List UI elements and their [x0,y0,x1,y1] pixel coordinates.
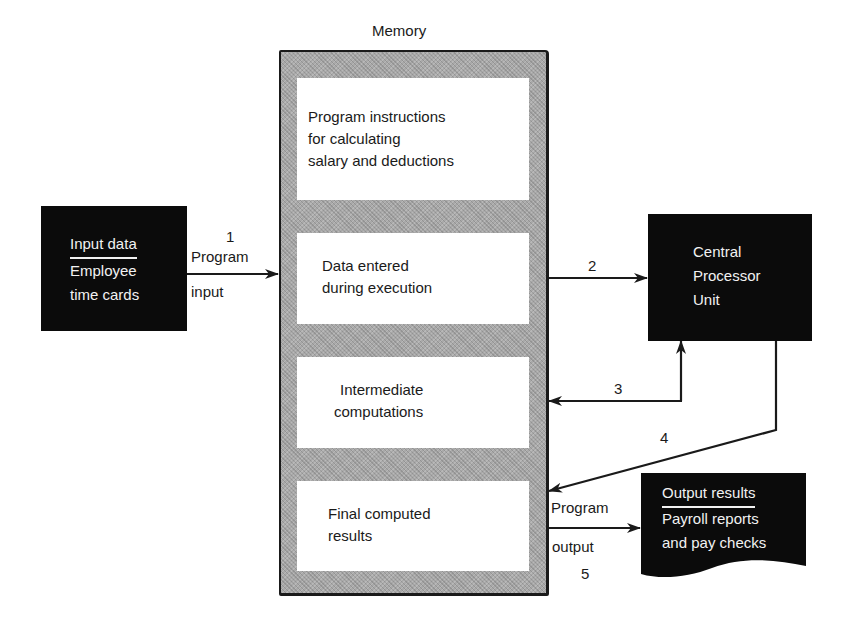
arrow-3-step-number: 3 [614,378,622,399]
slot-text-line: Program instructions [308,106,446,128]
arrow-5-label-top: Program [551,497,609,518]
memory-slot-final-results: Final computed results [297,481,529,571]
slot-text-line: salary and deductions [308,150,454,172]
arrow-1-step-number: 1 [226,226,234,247]
output-results-document: Output results Payroll reports and pay c… [641,473,806,573]
slot-text-line: Data entered [322,255,409,277]
output-line: and pay checks [662,531,766,555]
cpu-box: Central Processor Unit [648,214,812,341]
input-line: Employee [70,259,137,283]
arrow-4-step-number: 4 [660,427,668,448]
output-line: Payroll reports [662,507,759,531]
output-heading: Output results [662,481,755,508]
input-heading: Input data [70,232,137,259]
slot-text-line: Final computed [328,503,431,525]
memory-slot-program-instructions: Program instructions for calculating sal… [297,78,529,200]
memory-title: Memory [372,20,426,41]
memory-slot-intermediate-computations: Intermediate computations [297,357,529,448]
slot-text-line: computations [334,401,423,423]
cpu-line: Unit [693,288,720,312]
input-data-box: Input data Employee time cards [41,206,187,331]
slot-text-line: Intermediate [340,379,423,401]
cpu-line: Processor [693,264,761,288]
arrow-2-step-number: 2 [588,255,596,276]
arrow-5-step-number: 5 [581,563,589,584]
arrow-5-label-bottom: output [552,536,594,557]
slot-text-line: for calculating [308,128,401,150]
memory-slot-data-entered: Data entered during execution [297,233,529,324]
arrow-4-cpu-to-memory [549,340,776,491]
arrow-1-label-top: Program [191,246,249,267]
input-line: time cards [70,283,139,307]
arrow-1-label-bottom: input [191,281,224,302]
memory-block: Program instructions for calculating sal… [279,50,549,596]
cpu-line: Central [693,240,741,264]
slot-text-line: during execution [322,277,432,299]
slot-text-line: results [328,525,372,547]
